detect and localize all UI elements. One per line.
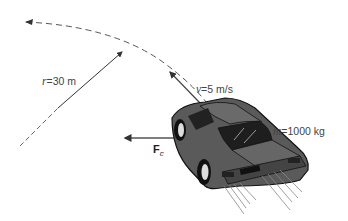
circular-motion-diagram: r=30 m v=5 m/s m=1000 kg Fc	[0, 0, 348, 221]
mass-label: m=1000 kg	[273, 126, 325, 138]
force-label: Fc	[153, 144, 164, 158]
circular-path	[26, 22, 212, 110]
car-illustration	[172, 98, 308, 189]
radius-label: r=30 m	[42, 76, 76, 88]
radius-line	[20, 108, 58, 146]
velocity-label: v=5 m/s	[196, 84, 233, 96]
path-arrowhead	[25, 19, 33, 25]
diagram-graphics	[0, 0, 348, 221]
